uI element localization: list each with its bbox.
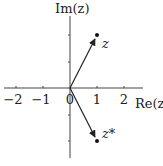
x-tick-label: −2 — [3, 92, 22, 107]
point-z-conjugate — [95, 139, 99, 143]
y-axis-label: Im(z) — [55, 1, 89, 16]
vector-z-conjugate — [70, 88, 95, 137]
x-tick-label: −1 — [31, 92, 50, 107]
x-axis-label: Re(z) — [135, 96, 163, 111]
label-z-conjugate: z* — [101, 126, 116, 141]
label-z: z — [101, 36, 109, 51]
complex-plane-diagram: −2 −1 0 1 2 Re(z) Im(z) z z* — [0, 0, 163, 166]
vector-z — [70, 39, 95, 88]
x-tick-label: 2 — [120, 92, 128, 107]
point-z — [95, 33, 99, 37]
x-tick-label: 1 — [93, 92, 101, 107]
